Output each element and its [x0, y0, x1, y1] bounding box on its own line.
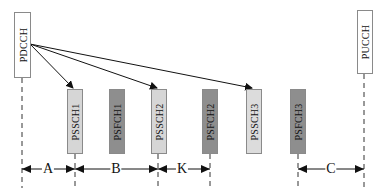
arrow-pdcch-to-pssch1	[30, 44, 73, 88]
channel-pucch: PUCCH	[357, 10, 373, 74]
channel-pssch2: PSSCH2	[151, 89, 167, 154]
channel-label: PSSCH2	[154, 103, 165, 140]
channel-psfch2: PSFCH2	[202, 89, 218, 154]
arrow-pdcch-to-pssch2	[30, 44, 157, 88]
channel-label: PDCCH	[17, 28, 28, 62]
scheduling-arrows	[30, 44, 252, 88]
timing-diagram: PDCCH PSSCH1 PSFCH1 PSSCH2 PSFCH2 PSSCH3…	[0, 0, 381, 193]
channel-label: PSFCH3	[293, 103, 304, 140]
diagram-lines	[0, 0, 381, 193]
channel-label: PSFCH2	[205, 103, 216, 140]
arrow-pdcch-to-pssch3	[30, 44, 252, 88]
channel-pssch3: PSSCH3	[246, 89, 262, 154]
interval-c-label: C	[325, 162, 336, 176]
channel-pssch1: PSSCH1	[67, 89, 83, 154]
channel-psfch3: PSFCH3	[290, 89, 306, 154]
interval-b-label: B	[110, 162, 121, 176]
interval-k-label: K	[176, 162, 188, 176]
channel-label: PSSCH1	[70, 103, 81, 140]
channel-pdcch: PDCCH	[14, 12, 31, 78]
channel-label: PSFCH1	[112, 103, 123, 140]
interval-a-label: A	[42, 162, 54, 176]
channel-psfch1: PSFCH1	[109, 89, 125, 154]
channel-label: PUCCH	[360, 25, 371, 59]
channel-label: PSSCH3	[249, 103, 260, 140]
